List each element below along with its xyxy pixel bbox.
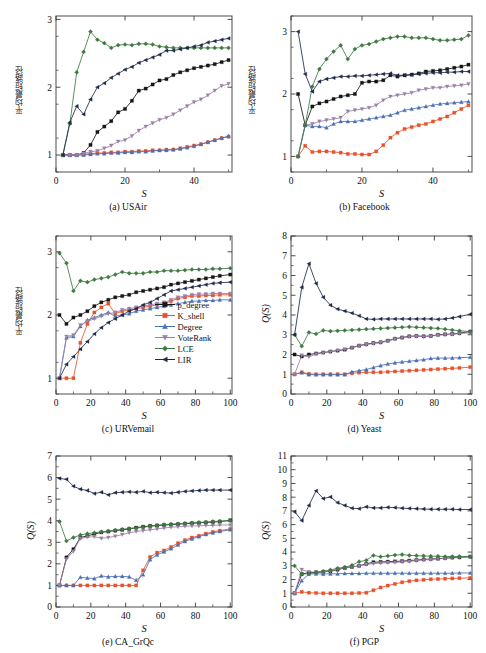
y-axis-label: 平均最短路径	[249, 66, 258, 114]
legend-marker-triangle-down-icon	[155, 332, 175, 343]
legend-marker-triangle-up-icon	[155, 321, 175, 332]
x-tick-label: 60	[156, 398, 166, 408]
subplot-caption-b: (b) Facebook	[247, 202, 482, 212]
data-point	[379, 586, 382, 589]
data-point	[360, 81, 363, 84]
data-point	[296, 92, 299, 95]
data-point	[65, 377, 68, 380]
data-point	[172, 73, 175, 76]
y-tick-label: 5	[282, 291, 287, 301]
data-point	[451, 367, 454, 370]
data-point	[114, 296, 117, 299]
x-tick-label: 20	[357, 176, 367, 186]
data-point	[336, 592, 339, 595]
data-point	[179, 71, 182, 74]
data-point	[165, 77, 168, 80]
data-point	[307, 591, 310, 594]
x-tick-label: 80	[430, 611, 440, 621]
x-tick-label: 100	[463, 398, 478, 408]
axes-frame	[56, 16, 232, 172]
y-tick-label: 6	[47, 473, 52, 483]
y-tick-label: 3	[47, 247, 52, 257]
data-point	[446, 67, 449, 70]
y-tick-label: 6	[282, 271, 287, 281]
data-point	[107, 584, 110, 587]
x-tick-label: 100	[223, 398, 238, 408]
data-point	[128, 293, 131, 296]
subplot-d: 012345678020406080100Q(S)S(d) Yeast	[247, 226, 482, 442]
x-tick-label: 80	[191, 398, 201, 408]
data-point	[229, 273, 232, 276]
data-point	[460, 107, 463, 110]
legend: p_degreeK_shellDegreeVoteRankLCELIR	[155, 299, 212, 365]
x-axis-label: S	[56, 623, 232, 634]
data-point	[346, 94, 349, 97]
data-point	[386, 370, 389, 373]
data-point	[89, 143, 92, 146]
y-tick-label: 5	[47, 495, 52, 505]
data-point	[72, 316, 75, 319]
x-tick-label: 40	[358, 611, 368, 621]
x-tick-label: 0	[54, 611, 59, 621]
data-point	[353, 92, 356, 95]
y-tick-label: 9	[282, 479, 287, 489]
y-tick-label: 1	[47, 374, 52, 384]
y-tick-label: 2	[47, 310, 52, 320]
x-tick-label: 40	[428, 176, 438, 186]
data-point	[311, 150, 314, 153]
legend-label: p_degree	[178, 300, 210, 310]
x-tick-label: 0	[289, 176, 294, 186]
data-point	[103, 125, 106, 128]
x-tick-label: 20	[86, 611, 96, 621]
x-tick-label: 80	[430, 398, 440, 408]
y-axis-label: Q(S)	[260, 510, 271, 550]
data-point	[121, 584, 124, 587]
data-point	[130, 99, 133, 102]
data-point	[93, 305, 96, 308]
legend-label: LIR	[178, 355, 192, 365]
data-point	[382, 79, 385, 82]
data-point	[386, 584, 389, 587]
data-point	[329, 592, 332, 595]
data-point	[65, 322, 68, 325]
subplot-b: 12302040平均最短路径S(b) Facebook	[247, 6, 482, 218]
data-point	[314, 591, 317, 594]
data-point	[458, 366, 461, 369]
data-point	[415, 369, 418, 372]
subplot-caption-f: (f) PGP	[247, 637, 482, 647]
data-point	[410, 125, 413, 128]
data-point	[453, 111, 456, 114]
data-point	[453, 66, 456, 69]
data-point	[360, 153, 363, 156]
data-point	[438, 117, 441, 120]
x-tick-label: 40	[121, 611, 131, 621]
data-point	[458, 577, 461, 580]
x-tick-label: 40	[358, 398, 368, 408]
data-point	[350, 592, 353, 595]
data-point	[332, 150, 335, 153]
data-point	[79, 584, 82, 587]
data-point	[325, 150, 328, 153]
x-tick-label: 20	[120, 176, 130, 186]
y-tick-label: 3	[47, 538, 52, 548]
figure-root: 12302040平均最短路径S(a) USAir12302040平均最短路径S(…	[0, 0, 486, 653]
data-point	[204, 277, 207, 280]
data-point	[444, 367, 447, 370]
legend-item-lce: LCE	[155, 343, 212, 354]
data-point	[211, 275, 214, 278]
data-point	[72, 377, 75, 380]
data-point	[422, 368, 425, 371]
data-point	[176, 282, 179, 285]
y-tick-label: 7	[47, 451, 52, 461]
y-tick-label: 3	[282, 27, 287, 37]
data-point	[318, 102, 321, 105]
data-point	[96, 130, 99, 133]
legend-label: Degree	[178, 322, 203, 332]
data-point	[446, 115, 449, 118]
data-point	[382, 144, 385, 147]
data-point	[114, 584, 117, 587]
data-point	[429, 578, 432, 581]
data-point	[93, 311, 96, 314]
subplot-e: 01234567020406080100Q(S)S(e) CA_GrQc	[14, 448, 242, 653]
data-point	[135, 291, 138, 294]
